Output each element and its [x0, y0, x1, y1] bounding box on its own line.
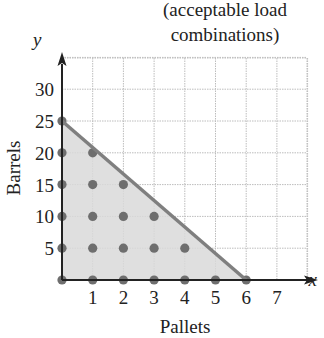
y-variable-label: y: [31, 29, 42, 50]
lattice-point: [119, 212, 128, 221]
lattice-point: [119, 244, 128, 253]
y-tick-label: 5: [45, 238, 55, 259]
x-tick-label: 2: [119, 287, 129, 308]
y-tick-label: 20: [35, 143, 54, 164]
x-tick-label: 6: [241, 287, 251, 308]
y-tick-label: 30: [35, 79, 54, 100]
y-tick-label: 10: [35, 206, 54, 227]
x-tick-label: 1: [88, 287, 98, 308]
y-tick-label: 25: [35, 111, 54, 132]
lattice-point: [88, 244, 97, 253]
x-axis-title: Pallets: [160, 316, 211, 337]
lattice-point: [180, 244, 189, 253]
lattice-point: [88, 212, 97, 221]
y-axis-title: Barrels: [3, 141, 24, 196]
lattice-point: [150, 244, 159, 253]
x-tick-label: 3: [149, 287, 159, 308]
lattice-point: [119, 180, 128, 189]
y-tick-label: 15: [35, 175, 54, 196]
y-axis-arrow-icon: [58, 52, 67, 66]
x-tick-label: 5: [211, 287, 221, 308]
x-variable-label: x: [308, 269, 318, 290]
lattice-point: [88, 180, 97, 189]
chart: 123456751015202530xyPalletsBarrels: [0, 0, 324, 338]
x-tick-label: 7: [272, 287, 282, 308]
lattice-point: [150, 212, 159, 221]
x-tick-label: 4: [180, 287, 190, 308]
